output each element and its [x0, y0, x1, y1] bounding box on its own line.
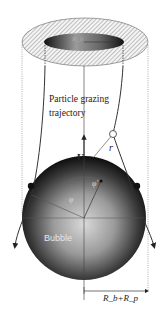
trajectory-label: Particle grazing trajectory [49, 92, 109, 120]
radial-distance-label: r [109, 143, 113, 153]
inner-radius-label: R_b [72, 36, 83, 43]
contact-point-left [28, 183, 34, 189]
angle-prime-label: φ' [92, 180, 98, 188]
velocity-label: U [77, 153, 84, 163]
contact-point-right [134, 183, 140, 189]
particle-point [99, 179, 102, 182]
particle-open-circle [110, 131, 117, 138]
bubble-label: Bubble [44, 234, 72, 243]
capture-ring [22, 18, 148, 66]
measurement-label: R_b+R_p [103, 294, 138, 303]
angle-label: φ [69, 196, 73, 204]
